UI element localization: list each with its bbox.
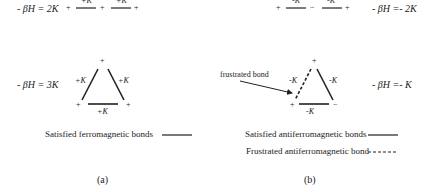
diagram-lines bbox=[0, 0, 425, 192]
chain-b-bond-label-2: -K bbox=[327, 0, 335, 5]
caption-a: (a) bbox=[97, 175, 108, 185]
chain-b-spin-3: + bbox=[345, 4, 350, 12]
chain-b-bond-label-1: -K bbox=[292, 0, 300, 5]
tri-a-spin-right: + bbox=[126, 101, 131, 109]
chain-a-spin-3: + bbox=[134, 4, 139, 12]
chain-b-energy: - βH =- 2K bbox=[372, 4, 417, 14]
tri-b-bond-left-label: -K bbox=[289, 77, 297, 85]
tri-a-bond-right-label: +K bbox=[118, 77, 129, 85]
tri-a-bond-left-label: +K bbox=[75, 77, 86, 85]
tri-a-bond-bottom-label: +K bbox=[97, 108, 108, 116]
chain-a-bond-label-1: +K bbox=[81, 0, 92, 5]
tri-b-bond-bottom-label: -K bbox=[306, 108, 314, 116]
tri-b-left-bond-frustrated bbox=[295, 69, 311, 100]
tri-a-energy: - βH = 3K bbox=[17, 80, 58, 90]
chain-b-spin-1: + bbox=[276, 4, 281, 12]
legend-b-solid-label: Satisfied antiferromagnetic bonds bbox=[245, 130, 366, 139]
tri-b-energy: - βH =- K bbox=[372, 80, 412, 90]
chain-a-energy: - βH = 2K bbox=[17, 4, 58, 14]
frustrated-arrow bbox=[240, 81, 292, 93]
tri-a-spin-left: + bbox=[76, 101, 81, 109]
legend-a-label: Satisfied ferromagnetic bonds bbox=[45, 130, 153, 139]
tri-b-spin-top: + bbox=[312, 57, 317, 65]
chain-a-spin-2: + bbox=[100, 4, 105, 12]
tri-a-spin-top: + bbox=[100, 57, 105, 65]
tri-b-spin-right: − bbox=[333, 101, 338, 109]
chain-a-spin-1: + bbox=[66, 4, 71, 12]
chain-b-spin-2: − bbox=[310, 4, 315, 12]
tri-b-spin-left: + bbox=[290, 101, 295, 109]
frustrated-bond-annotation: frustrated bond bbox=[220, 71, 269, 79]
chain-a-bond-label-2: +K bbox=[116, 0, 127, 5]
tri-b-bond-right-label: -K bbox=[329, 77, 337, 85]
legend-b-dashed-label: Frustrated antiferromagnetic bond bbox=[246, 147, 369, 156]
caption-b: (b) bbox=[304, 175, 316, 185]
